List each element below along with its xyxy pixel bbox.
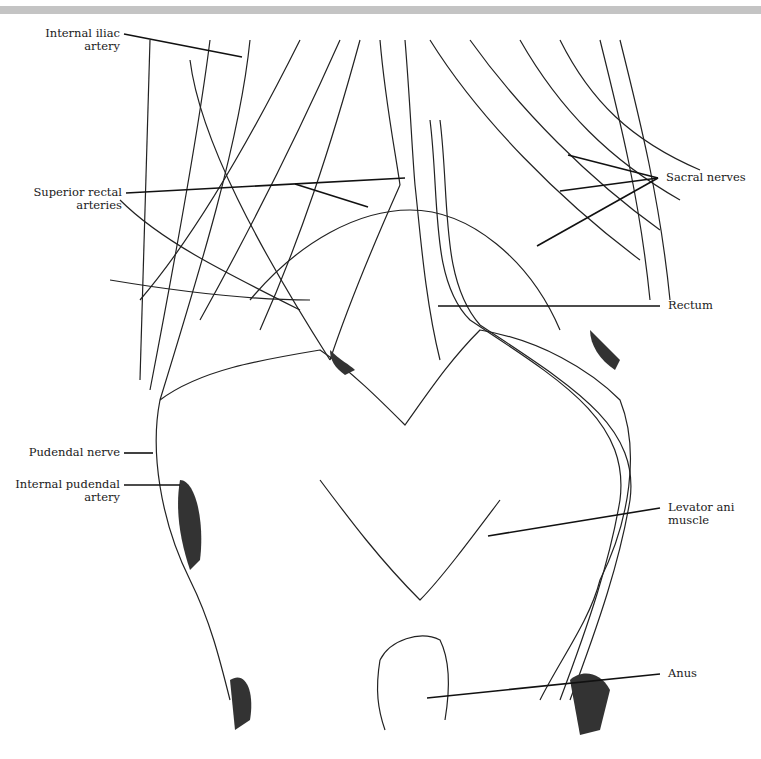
label-rectum: Rectum (668, 299, 713, 312)
label-text: Sacral nerves (666, 171, 746, 184)
leader-sacral-a (568, 155, 658, 178)
label-text: muscle (668, 514, 734, 527)
leader-superior-rectal-a (126, 178, 405, 193)
leader-superior-rectal-b (295, 184, 368, 207)
label-text: Pudendal nerve (10, 446, 120, 459)
leader-levator-ani (488, 508, 660, 536)
label-pudendal-nerve: Pudendal nerve (10, 446, 120, 459)
label-internal-iliac-artery: Internal iliac artery (20, 27, 120, 53)
label-anus: Anus (668, 667, 697, 680)
leader-internal-iliac (124, 34, 242, 57)
label-levator-ani-muscle: Levator ani muscle (668, 501, 734, 527)
label-sacral-nerves: Sacral nerves (666, 171, 746, 184)
label-text: artery (0, 491, 120, 504)
label-internal-pudendal-artery: Internal pudendal artery (0, 478, 120, 504)
illustration-linework (110, 40, 700, 735)
leader-sacral-b (560, 178, 658, 191)
label-text: artery (20, 40, 120, 53)
label-superior-rectal-arteries: Superior rectal arteries (10, 186, 122, 212)
label-text: Anus (668, 667, 697, 680)
anatomical-illustration (0, 0, 761, 759)
label-text: arteries (10, 199, 122, 212)
label-text: Rectum (668, 299, 713, 312)
